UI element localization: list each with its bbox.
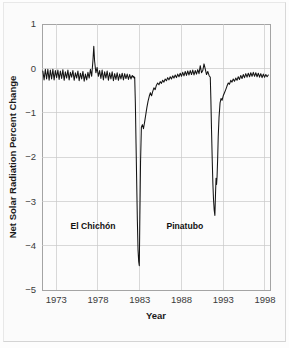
y-tick-label: −2	[25, 151, 36, 162]
y-tick-label: −5	[25, 284, 36, 295]
y-tick-label: −4	[25, 240, 36, 251]
y-tick-label: 1	[31, 18, 36, 29]
x-tick-label: 1983	[129, 294, 150, 305]
annotation-label: El Chichón	[71, 221, 116, 231]
y-axis-tick-labels: 10−1−2−3−4−5	[25, 18, 36, 295]
x-tick-label: 1998	[254, 294, 275, 305]
y-tick-label: −3	[25, 196, 36, 207]
x-tick-label: 1978	[87, 294, 108, 305]
y-tick-label: −1	[25, 107, 36, 118]
x-axis-tick-labels: 197319781983198819931998	[46, 294, 276, 305]
x-tick-label: 1973	[46, 294, 67, 305]
y-axis-title: Net Solar Radiation Percent Change	[7, 76, 18, 239]
annotation-label: Pinatubo	[166, 221, 203, 231]
x-axis-title: Year	[146, 310, 166, 321]
figure-root: 10−1−2−3−4−5 197319781983198819931998 El…	[0, 0, 289, 348]
solar-radiation-line-chart: 10−1−2−3−4−5 197319781983198819931998 El…	[0, 0, 289, 348]
x-tick-label: 1988	[171, 294, 192, 305]
y-tick-label: 0	[31, 63, 36, 74]
x-tick-label: 1993	[213, 294, 234, 305]
